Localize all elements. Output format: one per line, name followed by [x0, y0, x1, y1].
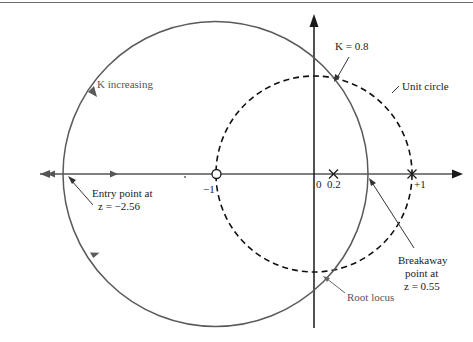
leader-arrow-icon — [68, 176, 76, 184]
locus-arrow-right-icon — [110, 171, 118, 178]
k-value-label: K = 0.8 — [335, 40, 369, 52]
k-increasing-label: K increasing — [97, 78, 153, 90]
breakaway-label-line1: Breakaway — [398, 254, 448, 266]
tick-label-pole: 0.2 — [327, 178, 341, 190]
entry-point-leader — [71, 180, 93, 205]
breakaway-label-line2: point at — [405, 267, 438, 279]
root-locus-diagram: −1 0 0.2 +1 K increasing K = 0.8 Unit ci… — [0, 0, 473, 342]
tick-label-zero: 0 — [316, 178, 322, 190]
leader-arrow-icon — [369, 178, 376, 186]
entry-point-label-line2: z = −2.56 — [98, 200, 141, 212]
unit-circle-label: Unit circle — [402, 80, 449, 92]
tick-label-minus-one: −1 — [203, 183, 215, 195]
k-value-leader — [337, 57, 349, 78]
locus-arrow-lower-icon — [89, 250, 100, 260]
entry-point-label-line1: Entry point at — [92, 187, 153, 199]
breakaway-leader — [371, 181, 414, 248]
arrow-right-icon — [452, 170, 463, 179]
root-locus-label: Root locus — [347, 291, 394, 303]
real-axis — [40, 170, 463, 179]
unit-circle-leader — [392, 86, 399, 93]
breakaway-label-line3: z = 0.55 — [404, 280, 440, 292]
zero-marker — [212, 170, 221, 179]
root-locus-leader — [326, 278, 345, 293]
arrow-up-icon — [310, 14, 319, 27]
tick-label-plus-one: +1 — [414, 178, 426, 190]
tick-mark — [184, 176, 186, 178]
